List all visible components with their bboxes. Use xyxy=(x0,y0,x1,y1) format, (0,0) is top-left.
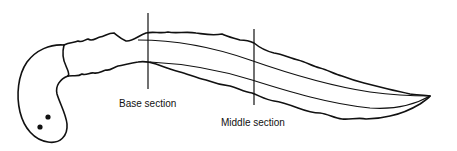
organ-outline-drawing xyxy=(0,0,457,151)
base-section-label: Base section xyxy=(119,98,176,109)
inner-upper-line xyxy=(138,40,430,96)
head-lobe xyxy=(18,45,68,142)
diagram: Base section Middle section xyxy=(0,0,457,151)
upper-outer-contour xyxy=(64,32,430,96)
dot-lower xyxy=(37,124,42,129)
lower-outer-contour xyxy=(68,62,430,120)
middle-section-label: Middle section xyxy=(221,117,285,128)
neck-line xyxy=(63,45,69,76)
dot-upper xyxy=(45,114,50,119)
inner-lower-line xyxy=(150,62,430,108)
